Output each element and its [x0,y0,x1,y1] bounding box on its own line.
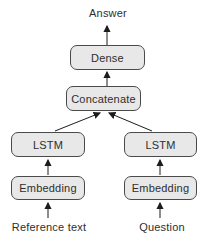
input-label-question: Question [139,221,185,233]
edge-lstm-right-to-concatenate [109,113,152,131]
node-lstm-left: LSTM [11,132,85,157]
diagram-edges [0,0,214,243]
output-label-answer: Answer [89,7,127,19]
node-embedding-right: Embedding [124,176,197,200]
architecture-diagram: Answer Dense Concatenate LSTM LSTM Embed… [0,0,214,243]
node-concatenate: Concatenate [66,86,141,111]
node-embedding-left: Embedding [11,176,85,200]
node-dense: Dense [70,45,145,70]
input-label-reference-text: Reference text [12,221,86,233]
edge-lstm-left-to-concatenate [55,113,100,131]
node-lstm-right: LSTM [124,132,197,157]
